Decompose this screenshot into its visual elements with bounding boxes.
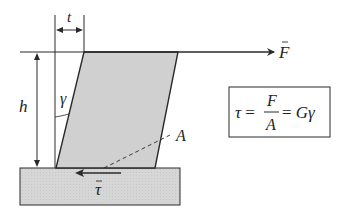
area-label: A [175,127,186,144]
height-label: h [19,97,28,116]
force-label: F [278,43,290,62]
shear-diagram: F t h γ A τ τ = F A = Gγ [0,0,345,217]
formula-rhs: = Gγ [282,103,316,122]
angle-arc [55,114,69,117]
formula-numerator: F [266,92,277,109]
thickness-label: t [67,9,72,25]
shear-stress-label: τ [95,180,102,199]
formula-denominator: A [265,116,276,133]
sheared-block [56,52,178,168]
angle-label: γ [60,90,67,108]
formula-lhs: τ = [235,103,255,122]
